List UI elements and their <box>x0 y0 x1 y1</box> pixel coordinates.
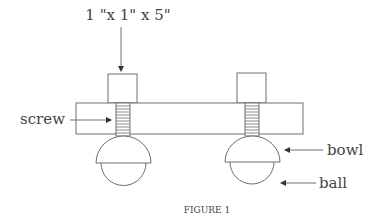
right-top-block <box>237 73 266 103</box>
left-screw <box>116 103 130 136</box>
right-screw <box>245 103 259 136</box>
ball-label: ball <box>319 174 347 192</box>
right-ball <box>230 162 274 184</box>
dimension-label: 1 "x 1" x 5" <box>85 6 170 24</box>
left-top-block <box>108 74 137 103</box>
bowl-label: bowl <box>327 141 363 159</box>
left-ball <box>101 163 146 186</box>
diagram-canvas: 1 "x 1" x 5" screw bowl ball FIGURE 1 <box>0 0 380 220</box>
screw-label: screw <box>20 110 65 128</box>
right-bowl <box>225 136 280 162</box>
horizontal-bar <box>76 103 303 134</box>
figure-caption: FIGURE 1 <box>184 205 231 215</box>
left-bowl <box>96 136 151 163</box>
